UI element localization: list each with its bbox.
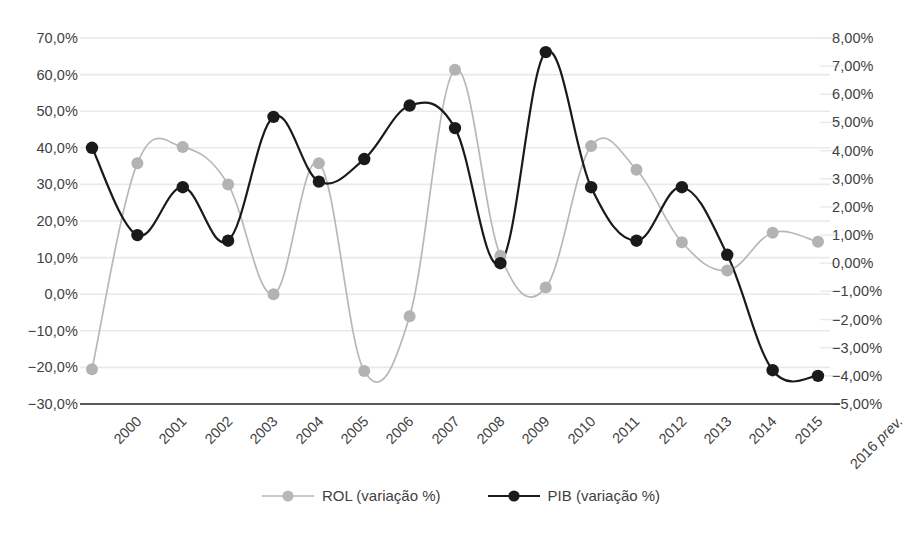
- data-point-marker: [767, 227, 779, 239]
- right-axis-tick-label: −2,00%: [832, 312, 882, 328]
- data-point-marker: [131, 229, 143, 241]
- right-axis-tick-label: 8,00%: [832, 30, 874, 46]
- circle-marker: [487, 488, 541, 504]
- data-point-marker: [585, 181, 597, 193]
- circle-marker: [261, 488, 315, 504]
- data-point-marker: [494, 257, 506, 269]
- right-axis-tick-label: 5,00%: [832, 114, 874, 130]
- right-axis-tick-label: 1,00%: [832, 227, 874, 243]
- right-axis-tick-label: 7,00%: [832, 58, 874, 74]
- legend-label: ROL (variação %): [322, 487, 441, 504]
- data-point-marker: [812, 370, 824, 382]
- legend-item[interactable]: PIB (variação %): [487, 487, 661, 504]
- chart-legend: ROL (variação %)PIB (variação %): [0, 487, 921, 504]
- data-point-marker: [177, 181, 189, 193]
- data-point-marker: [721, 249, 733, 261]
- right-axis-tick-label: 3,00%: [832, 171, 874, 187]
- right-axis-tick-label: −4,00%: [832, 368, 882, 384]
- data-point-marker: [631, 164, 643, 176]
- series-line: [92, 51, 818, 382]
- data-point-marker: [313, 157, 325, 169]
- series-lines: [92, 51, 818, 382]
- data-point-marker: [358, 365, 370, 377]
- data-point-marker: [177, 141, 189, 153]
- data-point-marker: [540, 282, 552, 294]
- data-point-marker: [267, 111, 279, 123]
- right-axis-tick-label: 0,00%: [832, 255, 874, 271]
- legend-label: PIB (variação %): [548, 487, 661, 504]
- data-point-marker: [540, 46, 552, 58]
- data-point-marker: [812, 236, 824, 248]
- series-markers: [86, 46, 824, 382]
- right-axis-tick-label: −3,00%: [832, 340, 882, 356]
- data-point-marker: [676, 181, 688, 193]
- gridlines: [80, 38, 840, 404]
- plot-area: [0, 0, 921, 537]
- data-point-marker: [222, 235, 234, 247]
- right-axis-tick-label: 2,00%: [832, 199, 874, 215]
- data-point-marker: [404, 310, 416, 322]
- data-point-marker: [131, 157, 143, 169]
- data-point-marker: [313, 175, 325, 187]
- data-point-marker: [358, 153, 370, 165]
- series-line: [92, 69, 818, 382]
- data-point-marker: [449, 122, 461, 134]
- right-axis-tick-label: −5,00%: [832, 396, 882, 412]
- data-point-marker: [630, 235, 642, 247]
- right-axis-tick-label: 6,00%: [832, 86, 874, 102]
- data-point-marker: [585, 140, 597, 152]
- right-axis: 8,00%7,00%6,00%5,00%4,00%3,00%2,00%1,00%…: [832, 0, 921, 537]
- data-point-marker: [766, 364, 778, 376]
- data-point-marker: [676, 236, 688, 248]
- data-point-marker: [222, 178, 234, 190]
- chart-container: 70,0%60,0%50,0%40,0%30,0%20,0%10,0%0,0%−…: [0, 0, 921, 537]
- right-axis-tick-label: −1,00%: [832, 283, 882, 299]
- right-axis-tick-label: 4,00%: [832, 143, 874, 159]
- data-point-marker: [268, 288, 280, 300]
- data-point-marker: [86, 142, 98, 154]
- data-point-marker: [403, 99, 415, 111]
- data-point-marker: [449, 64, 461, 76]
- data-point-marker: [86, 363, 98, 375]
- legend-item[interactable]: ROL (variação %): [261, 487, 441, 504]
- data-point-marker: [721, 264, 733, 276]
